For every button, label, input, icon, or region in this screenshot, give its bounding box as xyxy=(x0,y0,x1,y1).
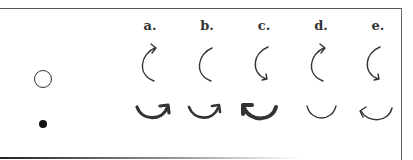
option-b-lower-arrow-icon xyxy=(189,105,220,118)
option-a-upper-arrow-icon xyxy=(142,44,156,81)
arrow-diagram xyxy=(0,0,413,160)
option-c-lower-arrow-icon xyxy=(243,105,276,118)
option-e-upper-arrow-icon xyxy=(367,47,380,80)
option-d-upper-arrow-icon xyxy=(311,44,325,81)
option-a-lower-arrow-icon xyxy=(137,105,169,118)
option-c-upper-arrow-icon xyxy=(255,47,268,80)
option-e-lower-arrow-icon xyxy=(360,107,392,120)
option-d-lower-arrow-icon xyxy=(307,106,336,118)
option-b-upper-arrow-icon xyxy=(199,48,212,81)
